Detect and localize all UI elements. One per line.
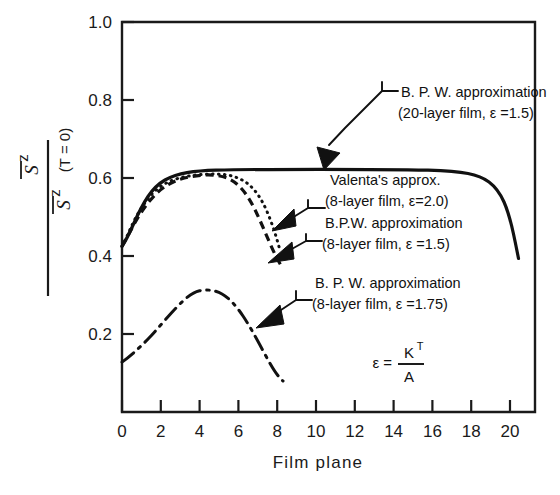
x-axis-tick-labels: 0 2 4 6 8 10 12 14 16 18 20 — [117, 422, 519, 441]
x-tick-label-2: 4 — [195, 422, 204, 441]
ylabel-numerator-symbol: S — [21, 165, 42, 175]
y-axis-tick-labels: 1.0 0.8 0.6 0.4 0.2 — [88, 13, 112, 344]
annotation-1-line-1: B. P. W. approximation — [401, 84, 547, 100]
annotation-1-line-2: (20-layer film, ε =1.5) — [398, 105, 534, 121]
annotation-3-line-1: B.P.W. approximation — [325, 215, 463, 231]
x-tick-label-8: 16 — [423, 422, 442, 441]
x-tick-label-3: 6 — [234, 422, 243, 441]
x-tick-label-10: 20 — [501, 422, 520, 441]
x-tick-label-7: 14 — [384, 422, 403, 441]
formula-numerator-sup: T — [417, 340, 424, 352]
y-tick-label-4: 0.2 — [88, 325, 112, 344]
annotation-2-line-1: Valenta's approx. — [330, 172, 441, 188]
x-tick-label-4: 8 — [272, 422, 281, 441]
formula-numerator: K — [404, 344, 414, 361]
ylabel-numerator: S z — [14, 154, 42, 179]
x-tick-label-9: 18 — [462, 422, 481, 441]
annotation-4-line-2: (8-layer film, ε =1.75) — [312, 296, 448, 312]
ylabel-denominator: S z (T = 0) — [46, 128, 74, 214]
x-tick-label-5: 10 — [307, 422, 326, 441]
x-tick-label-6: 12 — [345, 422, 364, 441]
annotation-2-line-2: (8-layer film, ε=2.0) — [325, 193, 449, 209]
x-tick-label-1: 2 — [156, 422, 165, 441]
figure-container: 1.0 0.8 0.6 0.4 0.2 0 2 4 6 8 1 — [0, 0, 560, 495]
ylabel-denominator-arg: (T = 0) — [56, 128, 73, 172]
ylabel-denominator-sup: z — [46, 189, 63, 197]
y-tick-label-0: 1.0 — [88, 13, 112, 32]
y-tick-label-1: 0.8 — [88, 91, 112, 110]
y-tick-label-2: 0.6 — [88, 169, 112, 188]
formula-denominator: A — [404, 368, 414, 385]
ylabel-denominator-symbol: S — [53, 200, 74, 210]
y-tick-label-3: 0.4 — [88, 247, 112, 266]
chart-svg: 1.0 0.8 0.6 0.4 0.2 0 2 4 6 8 1 — [0, 0, 560, 495]
formula-lhs: ε = — [372, 354, 392, 371]
annotation-3-line-2: (8-layer film, ε =1.5) — [322, 236, 450, 252]
y-axis-title: S z S z (T = 0) — [14, 128, 74, 296]
x-axis-title: Film plane — [273, 453, 363, 472]
ylabel-numerator-sup: z — [14, 154, 31, 162]
x-tick-label-0: 0 — [117, 422, 126, 441]
annotation-4-line-1: B. P. W. approximation — [315, 275, 461, 291]
